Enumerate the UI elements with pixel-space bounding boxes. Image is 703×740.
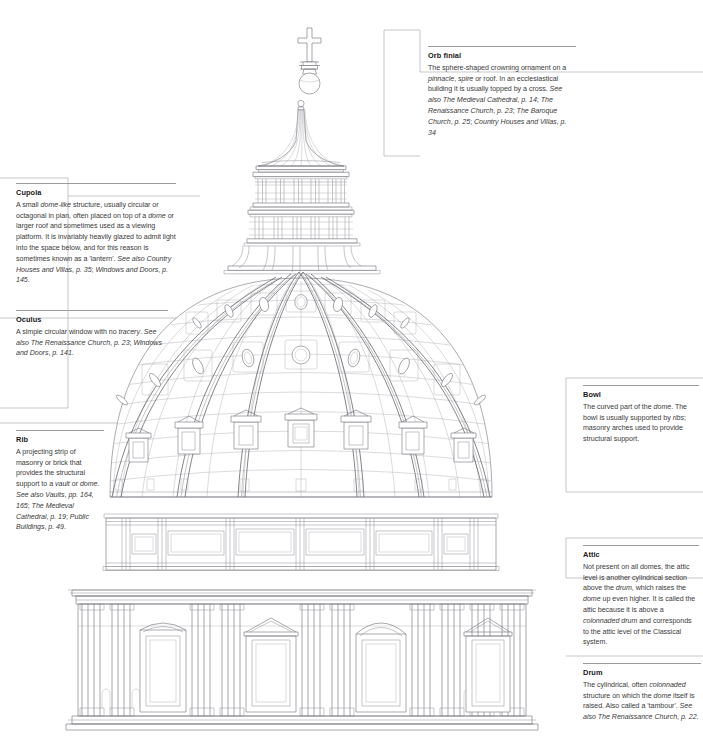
callout-bowl: Bowl The curved part of the dome. The bo… [583, 385, 699, 445]
callout-body: A projecting strip of masonry or brick t… [16, 447, 104, 533]
callout-title: Oculus [16, 316, 168, 325]
callout-body: A small dome-like structure, usually cir… [16, 200, 176, 286]
drum-drawing [66, 590, 556, 730]
callout-body: Not present on all domes, the attic leve… [583, 562, 699, 648]
callout-oculus: Oculus A simple circular window with no … [16, 310, 168, 359]
orb-finial-drawing [298, 28, 321, 94]
callout-rule [583, 545, 699, 546]
callout-cupola: Cupola A small dome-like structure, usua… [16, 183, 176, 286]
lantern-colonnade [255, 179, 347, 203]
cupola-drawing [224, 100, 380, 273]
callout-rule [16, 183, 176, 184]
callout-rule [16, 310, 168, 311]
dome-diagram-page: .ln { fill:none; stroke:#74747c; stroke-… [0, 0, 703, 740]
drum-windows [140, 618, 512, 712]
callout-title: Bowl [583, 391, 699, 400]
callout-orb-finial: Orb finial The sphere-shaped crowning or… [428, 46, 576, 138]
callout-title: Rib [16, 436, 104, 445]
callout-attic: Attic Not present on all domes, the atti… [583, 545, 699, 648]
callout-title: Orb finial [428, 52, 576, 61]
callout-body: The curved part of the dome. The bowl is… [583, 402, 699, 445]
callout-title: Attic [583, 551, 699, 560]
callout-body: The sphere-shaped crowning ornament on a… [428, 63, 576, 138]
callout-rule [16, 430, 104, 431]
callout-title: Cupola [16, 189, 176, 198]
attic-drawing [103, 514, 499, 571]
callout-rule [583, 385, 699, 386]
callout-drum: Drum The cylindrical, often colonnaded s… [583, 663, 701, 723]
callout-rib: Rib A projecting strip of masonry or bri… [16, 430, 104, 533]
bowl-drawing [110, 270, 492, 497]
callout-title: Drum [583, 669, 701, 678]
callout-body: A simple circular window with no tracery… [16, 327, 168, 359]
callout-body: The cylindrical, often colonnaded struct… [583, 680, 701, 723]
lantern-pedestal [224, 210, 380, 274]
callout-rule [583, 663, 701, 664]
callout-rule [428, 46, 576, 47]
